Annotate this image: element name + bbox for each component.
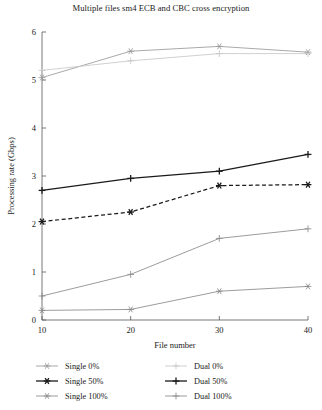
plus-marker-icon — [39, 67, 46, 74]
plus-marker-icon — [216, 50, 223, 57]
series-line-single-100 — [42, 286, 308, 310]
asterisk-marker-icon — [44, 393, 51, 399]
plus-marker-icon — [173, 393, 180, 400]
asterisk-marker-icon — [44, 363, 51, 369]
asterisk-marker-icon — [216, 183, 223, 189]
plus-marker-icon — [305, 151, 312, 158]
plus-marker-icon — [173, 378, 180, 385]
plus-marker-icon — [305, 50, 312, 57]
plus-marker-icon — [305, 225, 312, 232]
x-tick-label: 30 — [215, 325, 224, 335]
legend-item: Dual 0% — [165, 362, 223, 371]
plus-marker-icon — [39, 293, 46, 300]
y-tick-label: 0 — [32, 315, 36, 325]
legend-label: Single 100% — [65, 392, 108, 401]
legend-label: Dual 50% — [194, 377, 227, 386]
y-axis-title: Processing rate (Gbps) — [6, 137, 16, 215]
y-tick-label: 2 — [32, 219, 36, 229]
y-tick-label: 1 — [32, 267, 36, 277]
plus-marker-icon — [127, 271, 134, 278]
plus-marker-icon — [216, 168, 223, 175]
plus-marker-icon — [216, 235, 223, 242]
legend-item: Single 100% — [36, 392, 108, 401]
legend-item: Single 50% — [36, 377, 104, 386]
legend-item: Dual 50% — [165, 377, 227, 386]
plus-marker-icon — [127, 57, 134, 64]
chart-figure: Multiple files sm4 ECB and CBC cross enc… — [0, 0, 322, 410]
asterisk-marker-icon — [216, 44, 223, 50]
legend-label: Single 0% — [65, 362, 99, 371]
asterisk-marker-icon — [305, 182, 312, 188]
legend-item: Single 0% — [36, 362, 99, 371]
plus-marker-icon — [173, 363, 180, 370]
asterisk-marker-icon — [127, 209, 134, 215]
asterisk-marker-icon — [216, 288, 223, 294]
asterisk-marker-icon — [127, 307, 134, 313]
legend-label: Dual 100% — [194, 392, 232, 401]
series-line-single-50 — [42, 185, 308, 222]
y-tick-label: 4 — [32, 123, 37, 133]
y-tick-label: 5 — [32, 75, 36, 85]
x-axis-title: File number — [154, 340, 195, 350]
series-line-dual-0 — [42, 54, 308, 71]
series-line-single-0 — [42, 46, 308, 77]
series-line-dual-100 — [42, 229, 308, 296]
legend-label: Dual 0% — [194, 362, 223, 371]
x-tick-label: 10 — [38, 325, 47, 335]
legend-item: Dual 100% — [165, 392, 232, 401]
x-tick-label: 40 — [304, 325, 313, 335]
asterisk-marker-icon — [44, 378, 51, 384]
asterisk-marker-icon — [305, 284, 312, 290]
y-tick-label: 3 — [32, 171, 36, 181]
chart-canvas: 012345610203040File numberProcessing rat… — [0, 0, 322, 410]
x-tick-label: 20 — [126, 325, 135, 335]
asterisk-marker-icon — [127, 48, 134, 54]
legend-label: Single 50% — [65, 377, 104, 386]
series-line-dual-50 — [42, 154, 308, 190]
plus-marker-icon — [39, 187, 46, 194]
y-tick-label: 6 — [32, 27, 36, 37]
plus-marker-icon — [127, 175, 134, 182]
